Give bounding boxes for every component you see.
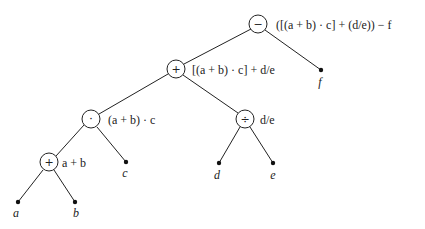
plus-operator: + [44,156,53,169]
node-expression-label: ([(a + b) · c] + (d/e)) − f [276,18,392,32]
operator-node-div: ÷ d/e [236,110,275,128]
leaf-dot [319,68,323,72]
times-operator: · [89,113,93,126]
edge-div-d [219,127,240,163]
node-expression-label: [(a + b) · c] + d/e [192,63,275,77]
leaf-node-f: f [318,68,323,89]
edge-plus1-times [99,74,168,114]
edge-times-plus2 [56,125,84,156]
plus-operator: + [171,63,180,76]
leaf-label: c [122,166,128,180]
edge-plus2-b [54,170,75,202]
expression-tree-diagram: − ([(a + b) · c] + (d/e)) − f + [(a + b)… [0,0,425,229]
leaf-dot [271,161,275,165]
leaf-node-e: e [270,161,276,182]
leaf-label: a [13,206,19,220]
leaf-node-b: b [73,200,79,220]
node-expression-label: d/e [260,113,275,127]
leaf-dot [124,160,128,164]
leaf-node-a: a [13,200,20,220]
edge-plus1-div [183,75,238,113]
edge-plus2-a [18,170,43,202]
leaf-node-c: c [122,160,128,180]
node-expression-label: (a + b) · c [108,113,155,127]
leaf-label: b [73,206,79,220]
node-expression-label: a + b [62,156,86,170]
leaf-dot [217,161,221,165]
leaf-label: f [318,75,323,89]
edge-times-c [97,127,126,162]
divide-operator: ÷ [240,113,249,126]
leaf-dot [16,200,20,204]
edge-div-e [250,127,273,163]
operator-node-times: · (a + b) · c [82,110,155,128]
operator-node-root: − ([(a + b) · c] + (d/e)) − f [249,15,392,33]
leaf-node-d: d [214,161,221,182]
leaf-label: e [270,168,276,182]
leaf-label: d [214,168,221,182]
minus-operator: − [253,18,262,31]
leaf-dot [73,200,77,204]
edge-root-plus1 [184,29,251,64]
operator-node-plus2: + a + b [40,153,86,171]
